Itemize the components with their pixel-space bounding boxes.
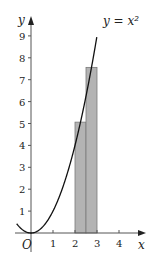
curve-label: y = x²: [102, 14, 139, 28]
origin-label: O: [22, 238, 32, 252]
y-tick-label: 9: [19, 31, 25, 42]
x-tick-label: 3: [94, 238, 100, 249]
y-tick-label: 2: [19, 184, 25, 195]
y-axis-label: y: [17, 13, 25, 27]
rectangle-2: [86, 67, 97, 233]
y-axis-arrow-icon: [28, 16, 34, 25]
y-tick-label: 8: [19, 53, 25, 64]
y-ticks: 123456789: [19, 31, 31, 217]
y-tick-label: 1: [19, 206, 25, 217]
y-tick-label: 5: [19, 119, 25, 130]
approximation-rectangles: [75, 67, 97, 233]
y-tick-label: 3: [19, 162, 25, 173]
x-axis-arrow-icon: [138, 230, 146, 236]
x-tick-label: 2: [72, 238, 78, 249]
y-tick-label: 7: [19, 75, 25, 86]
y-tick-label: 4: [19, 140, 25, 151]
y-tick-label: 6: [19, 97, 25, 108]
x-tick-label: 4: [116, 238, 122, 249]
x-axis-label: x: [138, 238, 145, 252]
x-tick-label: 1: [50, 238, 56, 249]
parabola-diagram: 1234 123456789 O x y y = x²: [0, 0, 149, 259]
